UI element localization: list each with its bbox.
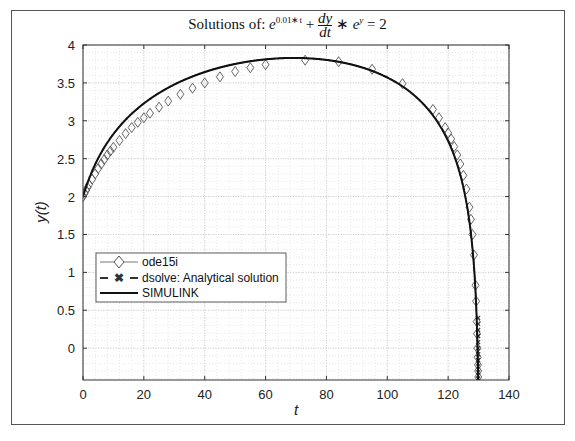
diamond-marker-icon: [156, 102, 163, 112]
x-tick-label: 60: [258, 387, 272, 402]
y-tick-label: 2.5: [57, 152, 75, 167]
diamond-marker-icon: [165, 96, 172, 106]
ode15i-line: [83, 58, 478, 395]
y-tick-label: 0: [68, 341, 75, 356]
diamond-marker-icon: [216, 72, 223, 82]
x-tick-label: 100: [376, 387, 398, 402]
x-tick-label: 0: [79, 387, 86, 402]
legend: ode15i ✖ dsolve: Analytical solution SIM…: [96, 253, 286, 302]
diamond-marker-icon: [232, 67, 239, 77]
diamond-marker-icon: [134, 117, 141, 127]
diamond-marker-icon: [247, 63, 254, 73]
y-tick-label: 4: [68, 38, 75, 53]
legend-item-simulink: SIMULINK: [142, 286, 199, 300]
ticks: 02040608010012014000.511.522.533.54: [57, 38, 520, 402]
diamond-marker-icon: [116, 135, 123, 145]
simulink-line: [83, 58, 478, 395]
series-layer: [80, 55, 482, 394]
legend-item-dsolve: dsolve: Analytical solution: [142, 271, 279, 285]
y-tick-label: 0.5: [57, 303, 75, 318]
y-tick-label: 1.5: [57, 227, 75, 242]
x-axis-label: t: [294, 401, 299, 418]
x-tick-label: 140: [498, 387, 520, 402]
axes-box: [83, 45, 509, 380]
diamond-marker-icon: [122, 129, 129, 139]
diamond-marker-icon: [128, 123, 135, 133]
x-tick-label: 40: [197, 387, 211, 402]
x-tick-label: 120: [437, 387, 459, 402]
x-tick-label: 80: [319, 387, 333, 402]
y-axis-label: y(t): [32, 201, 49, 224]
y-tick-label: 3.5: [57, 76, 75, 91]
y-tick-label: 2: [68, 190, 75, 205]
y-tick-label: 1: [68, 265, 75, 280]
y-tick-label: 3: [68, 114, 75, 129]
dsolve-line: [83, 58, 478, 395]
x-marker-icon: ✖: [114, 271, 124, 285]
grid: [83, 45, 509, 380]
chart-canvas: 02040608010012014000.511.522.533.54 t y(…: [0, 0, 575, 441]
legend-item-ode15i: ode15i: [142, 255, 178, 269]
x-tick-label: 20: [137, 387, 151, 402]
